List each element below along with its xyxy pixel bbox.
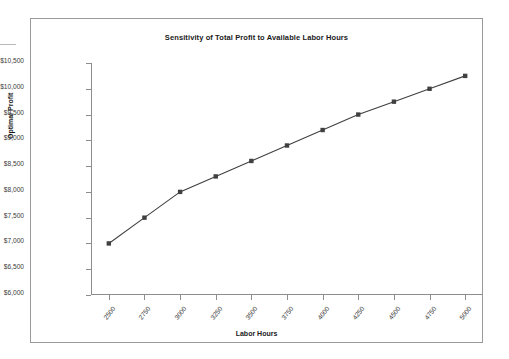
y-axis-tick-label: $8,500: [0, 163, 24, 164]
chart-frame: Sensitivity of Total Profit to Available…: [30, 18, 483, 343]
y-axis-tick-label: $6,000: [0, 292, 24, 293]
data-point-marker: [178, 190, 182, 194]
y-axis-tick-label: $7,500: [0, 215, 24, 216]
data-point-marker: [427, 87, 431, 91]
y-axis-tick-label: $10,000: [0, 86, 24, 87]
data-point-marker: [356, 112, 360, 116]
y-axis-tick-label: $9,500: [0, 112, 24, 113]
data-point-marker: [463, 74, 467, 78]
data-point-marker: [392, 99, 396, 103]
data-point-marker: [107, 241, 111, 245]
y-axis-tick-label: $8,000: [0, 189, 24, 190]
y-axis-title: Optimal Profit: [7, 93, 14, 139]
y-axis-tick-label: $10,500: [0, 60, 24, 61]
data-point-marker: [249, 159, 253, 163]
y-axis-tick-label: $6,500: [0, 266, 24, 267]
data-point-marker: [142, 215, 146, 219]
data-point-marker: [285, 143, 289, 147]
y-axis-tick-label: $9,000: [0, 137, 24, 138]
y-axis-tick-label: $7,000: [0, 240, 24, 241]
page-edge-rule: [0, 44, 16, 45]
data-point-marker: [214, 174, 218, 178]
data-point-marker: [320, 128, 324, 132]
series-line-optimal-profit: [31, 19, 484, 344]
